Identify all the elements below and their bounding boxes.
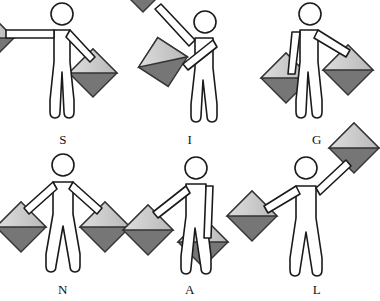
semaphore-figure-grid: S xyxy=(0,0,380,301)
flag-right xyxy=(80,202,130,252)
head xyxy=(295,157,317,179)
head xyxy=(52,154,74,176)
torso-legs xyxy=(296,30,322,118)
flag-left xyxy=(0,202,46,252)
torso-legs xyxy=(50,30,74,118)
semaphore-figure-i: I xyxy=(127,0,253,150)
figure-label: A xyxy=(127,282,253,298)
figure-l-drawing xyxy=(254,150,380,282)
head xyxy=(299,3,321,25)
semaphore-figure-a: A xyxy=(127,150,253,300)
torso-legs xyxy=(46,182,80,272)
left-arm xyxy=(264,186,300,213)
right-arm-raised xyxy=(316,160,351,195)
left-arm xyxy=(153,186,190,218)
figure-label: L xyxy=(254,282,380,298)
head xyxy=(194,11,216,33)
left-arm xyxy=(6,30,54,38)
semaphore-figure-s: S xyxy=(0,0,126,150)
figure-body xyxy=(153,157,213,274)
right-arm-down xyxy=(204,186,213,238)
semaphore-figure-l: L xyxy=(254,150,380,300)
figure-n-drawing xyxy=(0,150,126,282)
semaphore-figure-n: N xyxy=(0,150,126,300)
right-arm xyxy=(314,30,350,57)
right-arm xyxy=(69,182,102,214)
figure-s-drawing xyxy=(0,0,126,132)
figure-body xyxy=(24,154,102,272)
head xyxy=(51,3,73,25)
figure-label: I xyxy=(127,132,253,148)
figure-label: S xyxy=(0,132,126,148)
figure-g-drawing xyxy=(254,0,380,132)
figure-i-drawing xyxy=(127,0,253,132)
head xyxy=(185,157,207,179)
torso-legs xyxy=(290,186,322,276)
figure-label: N xyxy=(0,282,126,298)
left-arm xyxy=(24,182,57,214)
semaphore-figure-g: G xyxy=(254,0,380,150)
